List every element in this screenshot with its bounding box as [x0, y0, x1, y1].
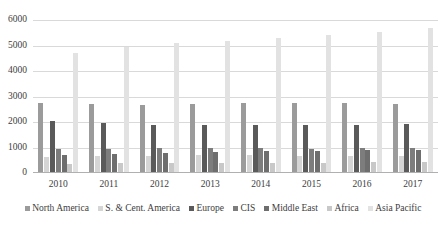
legend-label: Africa — [334, 203, 358, 213]
plot-area — [33, 20, 438, 173]
legend-item[interactable]: S. & Cent. America — [98, 203, 180, 213]
legend-item[interactable]: Europe — [189, 203, 224, 213]
bar — [416, 150, 421, 173]
y-axis-tick-label: 3000 — [8, 92, 27, 102]
x-axis-tick-label: 2013 — [185, 176, 236, 192]
bar — [157, 148, 162, 173]
chart-legend: North AmericaS. & Cent. AmericaEuropeCIS… — [0, 200, 446, 216]
bar — [38, 103, 43, 173]
legend-swatch-icon — [25, 206, 30, 211]
legend-label: CIS — [240, 203, 255, 213]
bar — [377, 32, 382, 173]
bar-group — [134, 20, 185, 173]
bar — [247, 155, 252, 173]
y-axis-tick-label: 5000 — [8, 41, 27, 51]
bar — [348, 156, 353, 173]
x-axis: 20102011201220132014201520162017 — [33, 176, 438, 192]
legend-item[interactable]: North America — [25, 203, 89, 213]
axis-baseline — [33, 172, 438, 173]
bar — [124, 47, 129, 173]
bar — [399, 156, 404, 173]
bar — [393, 104, 398, 173]
y-axis-tick-label: 1000 — [8, 143, 27, 153]
bar-group — [33, 20, 84, 173]
bar — [112, 154, 117, 173]
legend-label: North America — [32, 203, 89, 213]
bar — [264, 151, 269, 173]
bar — [225, 41, 230, 173]
bar-group — [185, 20, 236, 173]
bar — [297, 156, 302, 173]
bar — [213, 152, 218, 173]
bar-group — [387, 20, 438, 173]
bar — [354, 125, 359, 173]
legend-label: Europe — [197, 203, 224, 213]
bar — [326, 35, 331, 173]
bar — [190, 104, 195, 173]
bar — [315, 151, 320, 173]
legend-swatch-icon — [327, 206, 332, 211]
bar — [276, 38, 281, 173]
legend-item[interactable]: Africa — [327, 203, 359, 213]
bar — [196, 155, 201, 173]
bar — [174, 43, 179, 173]
bar — [50, 121, 55, 173]
x-axis-tick-label: 2016 — [337, 176, 388, 192]
bar — [292, 103, 297, 173]
legend-label: S. & Cent. America — [105, 203, 180, 213]
bar — [62, 155, 67, 173]
y-axis-tick-label: 6000 — [8, 15, 27, 25]
bar — [163, 153, 168, 173]
x-axis-tick-label: 2012 — [134, 176, 185, 192]
y-axis-tick-label: 4000 — [8, 66, 27, 76]
bar — [253, 125, 258, 173]
bar — [151, 125, 156, 173]
bar-groups — [33, 20, 438, 173]
legend-swatch-icon — [189, 206, 194, 211]
bar — [404, 124, 409, 173]
bar — [95, 156, 100, 173]
x-axis-tick-label: 2014 — [236, 176, 287, 192]
bar — [101, 123, 106, 173]
bar — [309, 149, 314, 173]
bar — [208, 148, 213, 173]
y-axis-tick-label: 2000 — [8, 117, 27, 127]
bar — [410, 148, 415, 173]
bar — [258, 148, 263, 173]
y-axis: 6000500040003000200010000 — [0, 20, 30, 173]
bar-group — [337, 20, 388, 173]
bar — [241, 103, 246, 173]
bar — [303, 125, 308, 173]
legend-label: Asia Pacific — [375, 203, 421, 213]
bar — [146, 156, 151, 173]
bar — [342, 103, 347, 173]
bar — [140, 105, 145, 173]
x-axis-tick-label: 2011 — [84, 176, 135, 192]
bar-group — [286, 20, 337, 173]
bar-group — [236, 20, 287, 173]
bar-group — [84, 20, 135, 173]
legend-swatch-icon — [233, 206, 238, 211]
legend-swatch-icon — [368, 206, 373, 211]
bar — [56, 149, 61, 173]
legend-item[interactable]: CIS — [233, 203, 255, 213]
bar — [44, 157, 49, 173]
legend-swatch-icon — [98, 206, 103, 211]
x-axis-tick-label: 2015 — [286, 176, 337, 192]
x-axis-tick-label: 2017 — [387, 176, 438, 192]
legend-label: Middle East — [272, 203, 318, 213]
bar-chart: 6000500040003000200010000 20102011201220… — [0, 0, 446, 226]
x-axis-tick-label: 2010 — [33, 176, 84, 192]
bar — [106, 149, 111, 173]
y-axis-tick-label: 0 — [22, 168, 27, 178]
bar — [365, 150, 370, 173]
bar — [73, 53, 78, 173]
legend-swatch-icon — [264, 206, 269, 211]
legend-item[interactable]: Middle East — [264, 203, 318, 213]
bar — [360, 148, 365, 173]
bar — [428, 28, 433, 173]
legend-item[interactable]: Asia Pacific — [368, 203, 422, 213]
bar — [202, 125, 207, 173]
bar — [89, 104, 94, 173]
